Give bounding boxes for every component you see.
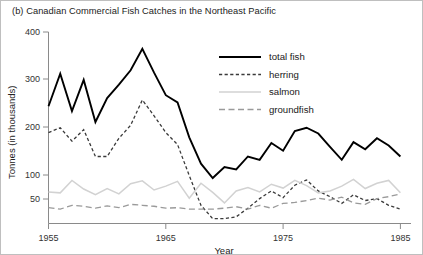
- chart-legend: total fishherringsalmongroundfish: [219, 51, 314, 115]
- series-line-herring: [49, 100, 401, 219]
- y-tick-label-200: 200: [25, 122, 40, 132]
- y-tick-label-400: 400: [25, 27, 40, 37]
- x-tick-label-1965: 1965: [156, 233, 176, 243]
- y-tick-label-50: 50: [30, 194, 40, 204]
- data-series-group: [49, 49, 401, 219]
- x-tick-label-1985: 1985: [390, 233, 410, 243]
- x-axis-title: Year: [214, 245, 233, 255]
- chart-figure: (b) Canadian Commercial Fish Catches in …: [0, 0, 423, 255]
- x-tick-label-1975: 1975: [273, 233, 293, 243]
- y-axis-title: Tonnes (in thousands): [6, 86, 17, 179]
- x-tick-label-1955: 1955: [38, 233, 58, 243]
- legend-label-salmon: salmon: [269, 86, 300, 97]
- chart-plot-area: 400 300 200 100 50 Tonnes (in thousands)…: [1, 1, 423, 255]
- y-tick-label-100: 100: [25, 170, 40, 180]
- y-axis-ticks: [43, 32, 49, 199]
- series-line-total-fish: [49, 49, 401, 178]
- y-tick-label-300: 300: [25, 74, 40, 84]
- x-axis-ticks: [49, 224, 401, 230]
- series-line-groundfish: [49, 194, 401, 209]
- legend-label-total-fish: total fish: [269, 51, 305, 62]
- legend-label-herring: herring: [269, 69, 299, 80]
- legend-label-groundfish: groundfish: [269, 104, 314, 115]
